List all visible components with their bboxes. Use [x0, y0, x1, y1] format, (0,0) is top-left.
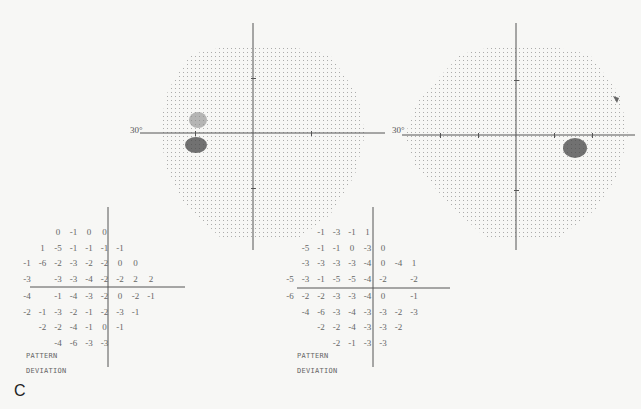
left-grid-axes: [20, 195, 270, 375]
grid-value: -1: [142, 291, 160, 301]
grid-value: -2: [374, 274, 392, 284]
left-deviation-label: DEVIATION: [26, 367, 67, 375]
grid-value: 2: [142, 274, 160, 284]
grid-value: -3: [96, 338, 114, 348]
grid-value: 0: [374, 291, 392, 301]
left-pattern-deviation-grid: 0-1001-5-1-1-1-1-1-6-2-3-2-200-3-3-3-4-2…: [20, 195, 270, 375]
right-eccentricity-label: 30°: [392, 125, 405, 135]
grid-value: -1: [405, 291, 423, 301]
grid-value: -3: [405, 307, 423, 317]
right-deviation-label: DEVIATION: [297, 367, 338, 375]
grid-value: 0: [127, 258, 145, 268]
grid-value: -1: [111, 322, 129, 332]
grid-value: -4: [18, 291, 36, 301]
grid-value: -1: [127, 307, 145, 317]
left-pattern-label: PATTERN: [26, 352, 58, 360]
grid-value: -3: [18, 274, 36, 284]
left-eccentricity-label: 30°: [130, 125, 143, 135]
panel-letter: C: [14, 382, 26, 400]
grid-value: -2: [405, 274, 423, 284]
grid-value: -2: [390, 322, 408, 332]
grid-value: 1: [359, 227, 377, 237]
grid-value: 1: [405, 258, 423, 268]
grid-value: 0: [96, 227, 114, 237]
right-pattern-deviation-grid: -1-3-11-5-1-10-30-3-3-3-3-40-41-5-3-1-5-…: [285, 195, 535, 375]
right-pattern-label: PATTERN: [297, 352, 329, 360]
grid-value: -1: [111, 243, 129, 253]
grid-value: 0: [374, 243, 392, 253]
grid-value: -3: [374, 338, 392, 348]
right-grid-axes: [285, 195, 535, 375]
